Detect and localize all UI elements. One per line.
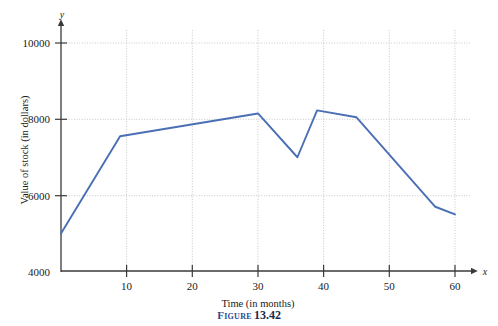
xtick-label-40: 40 <box>318 280 330 292</box>
x-axis-tick-labels: 10 20 30 40 50 60 <box>121 280 461 292</box>
ytick-label-8000: 8000 <box>28 113 51 125</box>
xtick-label-60: 60 <box>450 280 462 292</box>
x-axis-symbol: x <box>482 266 488 277</box>
grid-lines <box>61 30 470 272</box>
figure-caption-number: 13.42 <box>254 308 281 322</box>
xtick-label-50: 50 <box>384 280 396 292</box>
figure-caption: Figure13.42 <box>0 306 498 322</box>
stock-value-line-chart: 10000 8000 6000 4000 10 20 30 40 50 60 y… <box>0 0 498 326</box>
xtick-label-20: 20 <box>187 280 199 292</box>
axes <box>61 25 472 272</box>
ytick-label-4000: 4000 <box>28 266 51 278</box>
y-axis-title: Value of stock (in dollars) <box>19 95 31 205</box>
y-axis-symbol: y <box>59 9 65 20</box>
ytick-label-6000: 6000 <box>28 190 51 202</box>
ytick-label-10000: 10000 <box>23 37 51 49</box>
xtick-label-10: 10 <box>121 280 133 292</box>
figure-page: 10000 8000 6000 4000 10 20 30 40 50 60 y… <box>0 0 498 326</box>
figure-caption-label: Figure <box>217 309 252 321</box>
xtick-label-30: 30 <box>253 280 265 292</box>
